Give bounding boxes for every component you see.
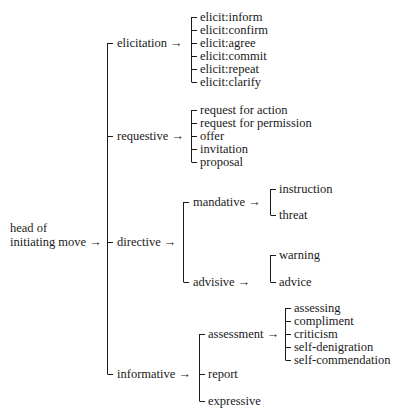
leaf-instruction: instruction [279, 183, 332, 196]
node-mandative: mandative → [193, 196, 261, 209]
node-elicitation: elicitation → [117, 37, 183, 50]
leaf-proposal: proposal [200, 156, 243, 169]
leaf-advice: advice [279, 276, 312, 289]
root-label-line1: head of [10, 222, 47, 235]
leaf-threat: threat [279, 209, 307, 222]
node-directive: directive → [117, 236, 176, 249]
node-informative: informative → [117, 368, 191, 381]
leaf-expressive: expressive [208, 395, 261, 408]
leaf-elicit-clarify: elicit:clarify [200, 76, 261, 89]
node-advisive: advisive → [193, 276, 250, 289]
root-label-line2: initiating move → [10, 236, 102, 249]
node-requestive: requestive → [117, 130, 184, 143]
node-assessment: assessment → [208, 328, 279, 341]
leaf-self-commendation: self-commendation [294, 354, 391, 367]
leaf-report: report [208, 368, 238, 381]
leaf-warning: warning [279, 249, 320, 262]
